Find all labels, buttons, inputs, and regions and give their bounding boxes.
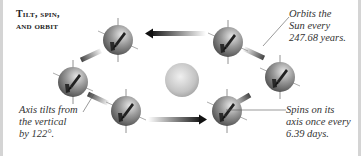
tilt-caption: Axis tilts from the vertical by 122°. [19, 104, 78, 140]
spin-caption: Spins on its axis once every 6.39 days. [286, 104, 351, 140]
sun-icon [165, 63, 199, 97]
planet-icon-top-left [98, 18, 138, 62]
diagram-canvas: Tilt, spin, and orbit [0, 0, 361, 156]
spin-caption-line-3: 6.39 days. [286, 128, 351, 140]
orbit-arrow-top [145, 29, 206, 39]
orbit-segment-upper-right [243, 46, 265, 60]
orbit-segment-lower-left [87, 92, 109, 106]
planet-icon-left [53, 60, 93, 104]
spin-caption-line-2: axis once every [286, 116, 351, 128]
tilt-caption-line-2: the vertical [19, 116, 78, 128]
orbit-caption-line-3: 247.68 years. [289, 32, 346, 44]
planet-icon-top-right [208, 20, 248, 64]
tilt-caption-line-1: Axis tilts from [19, 104, 78, 116]
orbit-caption-line-1: Orbits the [289, 8, 346, 20]
planet-icon-right [260, 55, 300, 99]
orbit-leader-line [263, 17, 289, 46]
tilt-caption-line-3: by 122°. [19, 128, 78, 140]
spin-caption-line-1: Spins on its [286, 104, 351, 116]
planet-icon-bottom-right [207, 89, 247, 133]
orbit-caption-line-2: Sun every [289, 20, 346, 32]
orbit-arrow-bottom [148, 115, 207, 125]
orbit-segment-upper-left [80, 48, 102, 62]
orbit-caption: Orbits the Sun every 247.68 years. [289, 8, 346, 44]
planet-icon-bottom-left [106, 89, 146, 133]
